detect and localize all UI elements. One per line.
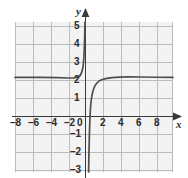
origin-label: 0 (77, 118, 83, 128)
y-tick-label-2: 2 (74, 75, 80, 85)
y-tick-label-1: 1 (74, 93, 80, 103)
y-tick-label-neg2: –2 (70, 147, 81, 157)
y-tick-label-5: 5 (74, 21, 80, 31)
y-tick-label-neg1: –1 (70, 129, 81, 139)
graph-figure: 5 4 3 2 1 –1 –2 –3 0 –8 –6 –4 –2 2 4 6 8… (0, 0, 188, 178)
x-tick-label-neg4: –4 (46, 118, 57, 128)
y-axis-label: y (76, 6, 81, 17)
x-tick-label-8: 8 (154, 118, 160, 128)
coordinate-plane (0, 0, 188, 178)
x-tick-label-6: 6 (136, 118, 142, 128)
y-tick-label-neg3: –3 (70, 165, 81, 175)
y-tick-label-3: 3 (74, 57, 80, 67)
x-tick-label-2: 2 (100, 118, 106, 128)
x-tick-label-neg6: –6 (28, 118, 39, 128)
x-tick-label-4: 4 (118, 118, 124, 128)
x-tick-label-neg2: –2 (64, 118, 75, 128)
x-tick-label-neg8: –8 (10, 118, 21, 128)
x-axis-label: x (176, 119, 182, 130)
y-tick-label-4: 4 (74, 39, 80, 49)
